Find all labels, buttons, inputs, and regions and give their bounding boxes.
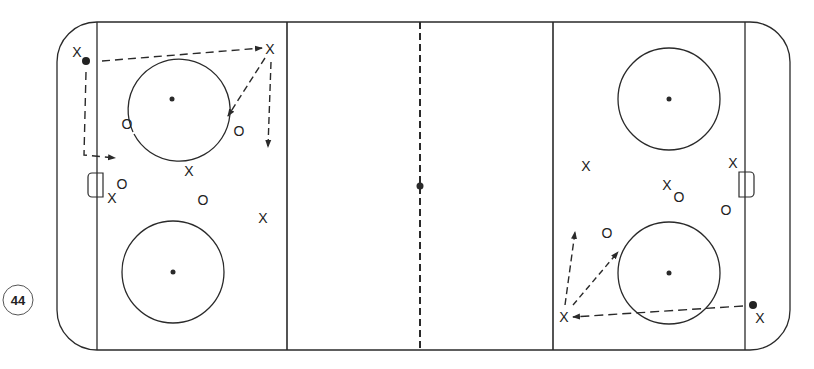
pass-arrow-up-right — [573, 252, 618, 305]
faceoff-circle-right-bottom — [618, 222, 720, 324]
right-goal-net — [739, 172, 754, 197]
skate-arrow-up — [565, 232, 575, 305]
player-marker: O — [198, 192, 209, 208]
player-marker: O — [721, 202, 732, 218]
left-goal-net — [88, 173, 103, 197]
player-marker: X — [755, 310, 765, 326]
pass-arrow-diagonal — [228, 58, 265, 116]
puck-left — [82, 57, 90, 65]
player-marker: O — [122, 116, 133, 132]
player-marker: O — [117, 176, 128, 192]
skate-arrow-down — [268, 62, 271, 147]
hockey-drill-diagram: X X O O X O X O X X X X O O O X X 44 — [0, 0, 814, 369]
right-zone-players: X X X O O O X X — [559, 155, 765, 326]
player-marker: X — [184, 163, 194, 179]
player-marker: X — [581, 158, 591, 174]
player-marker: X — [107, 190, 117, 206]
player-marker: X — [662, 177, 672, 193]
faceoff-circle-left-bottom — [122, 221, 224, 323]
pass-arrow-across-right — [573, 306, 743, 317]
player-marker: O — [674, 189, 685, 205]
player-marker: X — [728, 155, 738, 171]
player-marker: X — [265, 41, 275, 57]
page-number-badge: 44 — [3, 285, 33, 315]
faceoff-circle-right-top — [618, 48, 720, 150]
player-marker: X — [72, 44, 82, 60]
left-zone-players: X X O O X O X O X — [72, 41, 275, 226]
player-marker: O — [234, 123, 245, 139]
faceoff-circle-left-top — [128, 59, 230, 161]
puck-right — [749, 301, 757, 309]
player-marker: O — [602, 225, 613, 241]
skate-path-down-wall — [84, 72, 115, 158]
center-faceoff-dot — [417, 183, 424, 190]
player-marker: X — [559, 309, 569, 325]
page-number: 44 — [11, 293, 26, 308]
player-marker: X — [258, 210, 268, 226]
